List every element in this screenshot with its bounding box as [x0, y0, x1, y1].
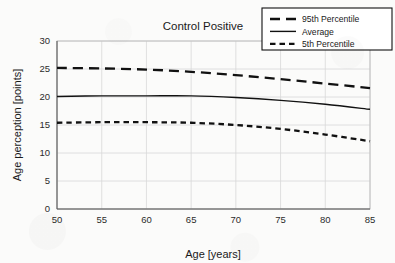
legend-label: 5th Percentile [302, 39, 355, 49]
data-series-layer [57, 68, 370, 141]
y-axis-tick-labels: 051015202530 [39, 35, 50, 214]
y-tick-label: 25 [39, 63, 50, 74]
x-axis-tick-labels: 5055606570758085 [52, 214, 376, 225]
y-tick-label: 20 [39, 91, 50, 102]
x-tick-label: 80 [320, 214, 331, 225]
y-tick-label: 10 [39, 147, 50, 158]
x-tick-label: 70 [231, 214, 242, 225]
legend-label: 95th Percentile [302, 14, 360, 24]
x-tick-label: 60 [141, 214, 152, 225]
y-tick-label: 30 [39, 35, 50, 46]
x-tick-label: 75 [275, 214, 286, 225]
horizontal-gridlines [57, 41, 370, 209]
x-tick-label: 65 [186, 214, 197, 225]
series-line-average [57, 96, 370, 110]
series-line-95th-percentile [57, 68, 370, 88]
x-tick-label: 55 [96, 214, 107, 225]
chart-legend[interactable]: 95th PercentileAverage5th Percentile [262, 8, 392, 50]
x-axis-title: Age [years] [185, 248, 241, 260]
x-tick-label: 85 [365, 214, 376, 225]
x-tick-label: 50 [52, 214, 63, 225]
y-tick-label: 5 [45, 175, 50, 186]
y-tick-label: 0 [45, 203, 50, 214]
chart-figure: 051015202530 5055606570758085 Age [years… [0, 0, 395, 263]
legend-label: Average [302, 27, 334, 37]
chart-title: Control Positive [163, 20, 244, 32]
y-tick-label: 15 [39, 119, 50, 130]
chart-canvas: 051015202530 5055606570758085 Age [years… [0, 0, 395, 263]
y-axis-title: Age perception [points] [11, 69, 23, 182]
